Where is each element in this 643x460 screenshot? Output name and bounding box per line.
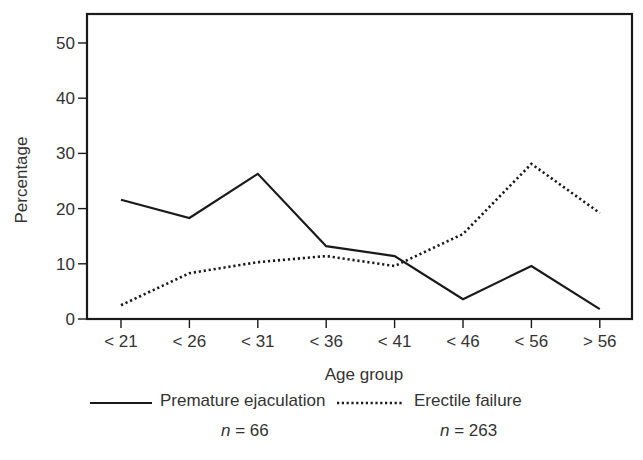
legend-n-erectile-failure: n = 263: [440, 421, 497, 441]
legend-label-premature-ejaculation: Premature ejaculation: [160, 391, 325, 411]
plot-frame: [87, 14, 632, 319]
x-tick-label: > 56: [583, 332, 617, 351]
x-tick-label: < 26: [173, 332, 207, 351]
chart-area: 01020304050 < 21< 26< 31< 36< 41< 46< 56…: [0, 0, 643, 390]
y-tick-label: 0: [66, 310, 75, 329]
x-tick-label: < 36: [309, 332, 343, 351]
x-tick-label: < 56: [515, 332, 549, 351]
legend-label-erectile-failure: Erectile failure: [414, 391, 522, 411]
x-tick-label: < 31: [241, 332, 275, 351]
x-axis-title: Age group: [325, 365, 403, 384]
series-lines: [121, 164, 600, 309]
y-axis-title: Percentage: [12, 137, 31, 224]
legend-solid-line-swatch: [90, 400, 152, 406]
y-tick-label: 40: [56, 89, 75, 108]
x-tick-label: < 41: [378, 332, 412, 351]
y-tick-label: 20: [56, 200, 75, 219]
n-value: = 263: [449, 421, 497, 440]
x-tick-label: < 21: [104, 332, 138, 351]
legend-dotted-line-swatch: [337, 400, 403, 406]
x-axis: < 21< 26< 31< 36< 41< 46< 56> 56: [104, 319, 616, 351]
premature-ejaculation-line: [121, 174, 600, 309]
erectile-failure-line: [121, 164, 600, 305]
legend: Premature ejaculation Erectile failure n…: [0, 388, 643, 458]
x-tick-label: < 46: [446, 332, 480, 351]
y-tick-label: 10: [56, 255, 75, 274]
legend-n-premature-ejaculation: n = 66: [221, 421, 269, 441]
y-axis: 01020304050: [56, 34, 87, 329]
y-tick-label: 30: [56, 144, 75, 163]
y-tick-label: 50: [56, 34, 75, 53]
n-value: = 66: [230, 421, 268, 440]
